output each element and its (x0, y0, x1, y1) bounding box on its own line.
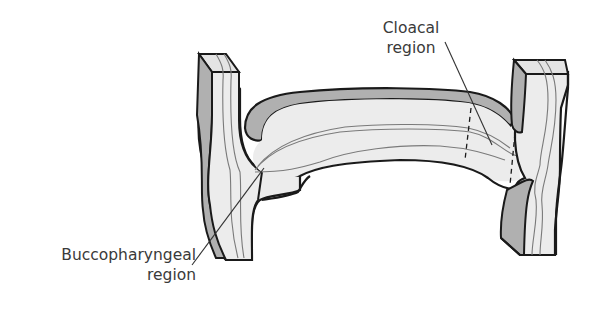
cloacal-label-line1: Cloacal (371, 18, 451, 38)
cloacal-region-label: Cloacal region (371, 18, 451, 58)
buccopharyngeal-region-label: Buccopharyngeal region (28, 245, 196, 285)
cloacal-label-line2: region (371, 38, 451, 58)
buccopharyngeal-label-line1: Buccopharyngeal (28, 245, 196, 265)
buccopharyngeal-label-line2: region (28, 265, 196, 285)
